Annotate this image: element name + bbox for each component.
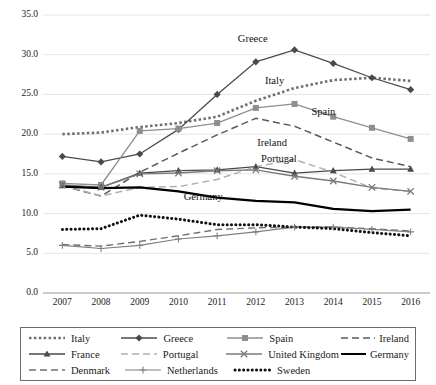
y-tick-label: 30.0	[2, 49, 38, 59]
data-point-netherlands	[407, 228, 414, 235]
series-line-netherlands	[62, 227, 410, 248]
line-chart: 35.030.025.020.015.010.05.00.0 200720082…	[0, 0, 436, 322]
series-line-ireland	[62, 118, 410, 196]
data-point-spain	[214, 120, 220, 126]
legend-swatch-france	[27, 348, 67, 360]
data-point-greece	[330, 60, 337, 67]
series-line-sweden	[62, 215, 410, 236]
x-tick-label: 2015	[352, 297, 392, 307]
legend-item-italy[interactable]: Italy	[27, 332, 119, 344]
legend-swatch-ireland	[339, 332, 375, 344]
legend-row: ItalyGreeceSpainIreland	[27, 330, 409, 346]
legend-item-greece[interactable]: Greece	[119, 332, 225, 344]
legend-item-netherlands[interactable]: Netherlands	[123, 364, 233, 376]
legend-label: Spain	[265, 333, 293, 344]
series-label-italy: Italy	[265, 75, 284, 86]
legend-label: Sweden	[273, 365, 310, 376]
legend-item-united-kingdom[interactable]: United Kingdom	[224, 348, 339, 360]
y-tick-label: 0.0	[2, 287, 38, 297]
data-point-spain	[253, 105, 259, 111]
data-point-spain	[292, 101, 298, 107]
legend-item-sweden[interactable]: Sweden	[233, 364, 351, 376]
x-tick-label: 2007	[42, 297, 82, 307]
series-line-greece	[62, 50, 410, 162]
legend-label: France	[67, 349, 100, 360]
legend-label: Denmark	[67, 365, 110, 376]
legend-row: FrancePortugalUnited KingdomGermany	[27, 346, 409, 362]
data-point-spain	[175, 126, 181, 132]
chart-root: 35.030.025.020.015.010.05.00.0 200720082…	[0, 0, 436, 385]
series-label-greece: Greece	[238, 33, 268, 44]
legend-row: DenmarkNetherlandsSweden	[27, 362, 409, 378]
series-line-denmark	[62, 227, 410, 246]
legend-item-spain[interactable]: Spain	[225, 332, 339, 344]
series-line-germany	[62, 187, 410, 212]
data-point-netherlands	[214, 232, 221, 239]
legend-item-denmark[interactable]: Denmark	[27, 364, 123, 376]
data-point-greece	[59, 153, 66, 160]
y-tick-label: 35.0	[2, 9, 38, 19]
x-tick-label: 2010	[158, 297, 198, 307]
x-tick-label: 2009	[120, 297, 160, 307]
legend-label: Germany	[366, 349, 409, 360]
data-point-greece	[136, 150, 143, 157]
legend-swatch-sweden	[233, 364, 273, 376]
legend-swatch-netherlands	[123, 364, 163, 376]
data-point-spain	[369, 125, 375, 131]
legend-swatch-portugal	[119, 348, 159, 360]
legend-item-france[interactable]: France	[27, 348, 119, 360]
data-point-greece	[291, 46, 298, 53]
series-label-ireland: Ireland	[257, 137, 287, 148]
legend-item-ireland[interactable]: Ireland	[339, 332, 409, 344]
legend-label: United Kingdom	[264, 349, 339, 360]
legend-swatch-italy	[27, 332, 67, 344]
data-point-netherlands	[136, 242, 143, 249]
legend-label: Portugal	[159, 349, 199, 360]
data-point-spain	[137, 128, 143, 134]
series-layer	[62, 50, 410, 249]
data-point-spain	[408, 136, 414, 142]
legend-label: Greece	[159, 333, 193, 344]
x-tick-label: 2016	[391, 297, 431, 307]
series-label-spain: Spain	[311, 106, 335, 117]
data-point-netherlands	[291, 224, 298, 231]
legend-swatch-denmark	[27, 364, 67, 376]
data-point-netherlands	[252, 228, 259, 235]
legend-grid: ItalyGreeceSpainIrelandFrancePortugalUni…	[21, 328, 415, 380]
legend-label: Netherlands	[163, 365, 218, 376]
y-tick-label: 25.0	[2, 88, 38, 98]
x-tick-label: 2012	[236, 297, 276, 307]
x-tick-label: 2011	[197, 297, 237, 307]
legend-swatch-greece	[119, 332, 159, 344]
chart-legend: ItalyGreeceSpainIrelandFrancePortugalUni…	[20, 327, 416, 381]
x-tick-label: 2013	[275, 297, 315, 307]
legend-label: Ireland	[375, 333, 409, 344]
data-point-greece	[97, 158, 104, 165]
legend-swatch-spain	[225, 332, 265, 344]
x-tick-label: 2014	[313, 297, 353, 307]
legend-swatch-united-kingdom	[224, 348, 264, 360]
series-label-portugal: Portugal	[261, 153, 297, 164]
plot-svg	[0, 0, 436, 322]
legend-label: Italy	[67, 333, 90, 344]
y-tick-label: 20.0	[2, 128, 38, 138]
legend-swatch-germany	[339, 348, 366, 360]
data-point-greece	[368, 74, 375, 81]
data-point-netherlands	[59, 242, 66, 249]
series-label-germany: Germany	[184, 191, 223, 202]
data-point-greece	[407, 86, 414, 93]
y-tick-label: 10.0	[2, 208, 38, 218]
y-tick-label: 5.0	[2, 247, 38, 257]
legend-item-germany[interactable]: Germany	[339, 348, 409, 360]
series-line-italy	[62, 78, 410, 134]
legend-item-portugal[interactable]: Portugal	[119, 348, 224, 360]
y-tick-label: 15.0	[2, 168, 38, 178]
x-tick-label: 2008	[81, 297, 121, 307]
